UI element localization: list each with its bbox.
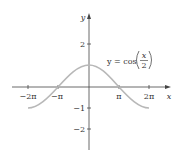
x-tick-label-2pi: 2π [144,92,154,101]
cosine-curve [28,65,149,108]
cosine-graph: −2π −π π 2π 2 −1 −2 x y y = cos x 2 [0,0,180,156]
equation-denominator: 2 [141,61,146,70]
y-tick-label-2: 2 [80,40,85,49]
x-tick-label-neg-pi: −π [51,92,63,101]
x-tick-label-pi: π [116,92,121,101]
equation-annotation: y = cos x 2 [106,51,152,70]
y-axis-arrow-icon [87,13,91,19]
y-tick-label-neg-1: −1 [73,104,85,113]
x-axis-arrow-icon [165,85,171,89]
y-axis-label: y [80,13,86,22]
y-tick-label-neg-2: −2 [73,125,85,134]
equation-numerator: x [142,51,147,60]
x-axis-label: x [167,92,172,101]
axes [12,16,168,150]
right-paren [149,51,152,69]
x-tick-label-neg-2pi: −2π [19,92,36,101]
left-paren [137,51,140,69]
equation-lhs: y = cos [106,57,137,66]
